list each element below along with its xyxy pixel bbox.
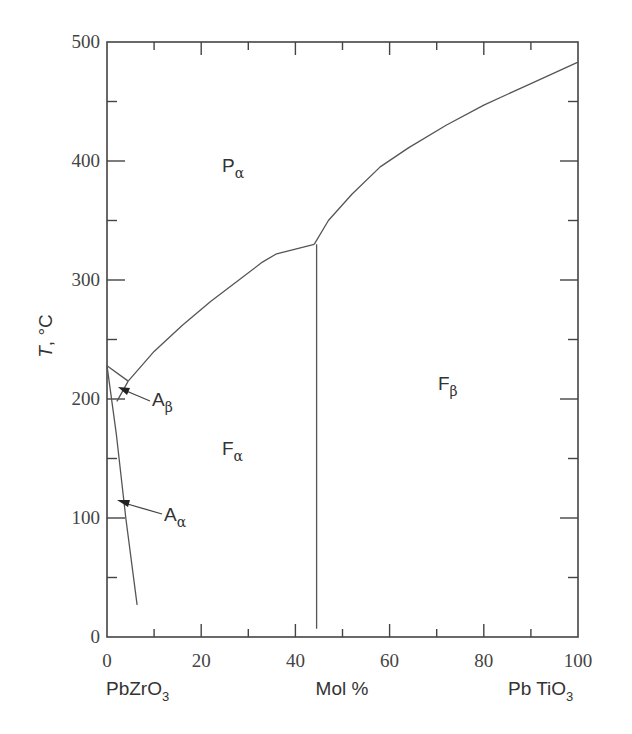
plot-frame — [107, 42, 578, 637]
x-axis-label: Mol % — [316, 678, 369, 699]
x-tick-label: 80 — [474, 650, 493, 671]
y-tick-label: 200 — [72, 388, 101, 409]
x-tick-label: 0 — [102, 650, 112, 671]
phase-boundary-line — [128, 244, 314, 381]
right-compound-label: Pb TiO3 — [508, 678, 573, 704]
axis-ticks: 0204060801000100200300400500 — [72, 31, 593, 671]
y-tick-label: 300 — [72, 269, 101, 290]
a-alpha-arrowhead-icon — [117, 500, 130, 507]
region-a-alpha: Aα — [164, 504, 187, 530]
phase-boundary-line — [107, 366, 137, 605]
x-tick-label: 40 — [286, 650, 305, 671]
x-tick-label: 20 — [192, 650, 211, 671]
x-tick-label: 60 — [380, 650, 399, 671]
region-p-alpha: Pα — [222, 155, 245, 181]
y-tick-label: 400 — [72, 150, 101, 171]
y-axis-label: T, °C — [35, 314, 56, 358]
y-tick-label: 100 — [72, 507, 101, 528]
phase-boundary-line — [107, 366, 128, 381]
plot-border — [107, 42, 578, 637]
phase-boundary-line — [314, 62, 578, 244]
left-compound-label: PbZrO3 — [106, 678, 169, 704]
region-f-alpha: Fα — [222, 438, 244, 464]
a-alpha-arrow-line — [124, 503, 162, 514]
a-beta-arrowhead-icon — [118, 387, 130, 395]
y-tick-label: 500 — [72, 31, 101, 52]
region-a-beta: Aβ — [152, 389, 173, 415]
x-tick-label: 100 — [564, 650, 593, 671]
phase-boundaries — [107, 62, 578, 629]
phase-diagram: 0204060801000100200300400500 T, °C Mol %… — [0, 0, 632, 734]
y-tick-label: 0 — [91, 626, 101, 647]
region-f-beta: Fβ — [438, 373, 458, 399]
